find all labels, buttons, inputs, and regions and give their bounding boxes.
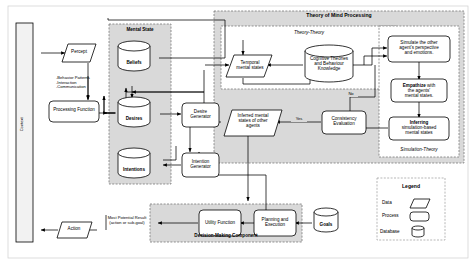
node-goals: [314, 208, 338, 232]
node-percept: [62, 44, 96, 62]
node-temporal-mental-states: [226, 55, 272, 77]
node-beliefs: [118, 41, 150, 71]
node-processing-function: [49, 101, 99, 122]
legend-shape-data: [410, 199, 430, 208]
legend-shape-process: [410, 212, 429, 221]
node-empathize: [391, 79, 447, 102]
node-intention-generator: [182, 153, 219, 177]
node-context: [16, 23, 33, 242]
node-utility-function: [199, 210, 241, 236]
node-intentions: [118, 148, 150, 178]
node-simulate-perspective: [388, 36, 450, 62]
node-cognitive-theories: [305, 45, 353, 82]
diagram-canvas: Context Percept -Behavior Patterns -Inte…: [0, 0, 476, 264]
node-desire-generator: [182, 103, 219, 127]
node-planning-execution: [254, 210, 296, 236]
node-inferred-mental-states: [224, 110, 282, 136]
node-desires: [118, 97, 150, 127]
region-legend: [377, 178, 445, 240]
node-inferring-simulation: [389, 117, 449, 140]
node-consistency-evaluation: [322, 111, 366, 134]
legend-shape-database: [412, 226, 424, 237]
diagram-shapes: [0, 0, 476, 264]
node-action: [57, 222, 92, 238]
